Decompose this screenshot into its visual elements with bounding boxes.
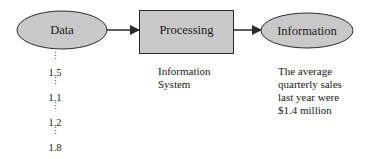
- processing-node-label: Processing: [139, 23, 234, 38]
- data-values-list: ⋮ 1.5 ⋮ 1.1 ⋮ 1.2 ⋮ 1.8: [40, 53, 70, 153]
- caption-line: quarterly sales: [278, 78, 342, 91]
- ellipsis-icon: ⋮: [40, 128, 70, 142]
- ellipsis-icon: ⋮: [40, 53, 70, 67]
- data-value: 1.8: [40, 142, 70, 153]
- ellipsis-icon: ⋮: [40, 103, 70, 117]
- caption-line: System: [158, 78, 211, 91]
- processing-caption: Information System: [158, 65, 211, 91]
- information-caption: The average quarterly sales last year we…: [278, 65, 342, 117]
- data-node-label: Data: [17, 23, 107, 38]
- ellipsis-icon: ⋮: [40, 78, 70, 92]
- information-node-label: Information: [261, 24, 353, 39]
- caption-line: Information: [158, 65, 211, 78]
- caption-line: last year were: [278, 91, 342, 104]
- caption-line: $1.4 million: [278, 104, 342, 117]
- caption-line: The average: [278, 65, 342, 78]
